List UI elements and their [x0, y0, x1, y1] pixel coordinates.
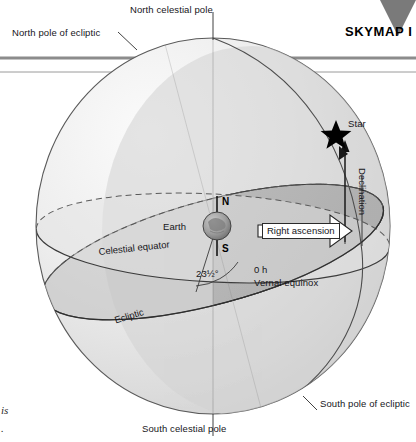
- label-vernal-hour: 0 h: [254, 264, 268, 276]
- label-star: Star: [348, 118, 366, 130]
- label-obliquity-angle: 23½°: [196, 268, 219, 280]
- celestial-sphere-artwork: [0, 0, 416, 442]
- skymap-figure: SKYMAP I North celestial pole North pole…: [0, 0, 416, 442]
- label-vernal-equinox: Vernal equinox: [254, 277, 318, 289]
- label-north-pole-of-ecliptic: North pole of ecliptic: [12, 27, 100, 39]
- label-declination: Declination: [357, 168, 368, 215]
- label-north-celestial-pole: North celestial pole: [130, 4, 213, 16]
- margin-text-fragment-1: is: [1, 404, 8, 416]
- label-earth: Earth: [163, 221, 186, 233]
- skymap-title: SKYMAP I: [345, 24, 412, 39]
- margin-text-fragment-2: .: [1, 422, 4, 434]
- leader-south-pole-of-ecliptic: [303, 396, 317, 410]
- label-south-axis: S: [222, 243, 229, 254]
- label-south-celestial-pole: South celestial pole: [142, 423, 226, 435]
- label-south-pole-of-ecliptic: South pole of ecliptic: [320, 398, 410, 410]
- label-right-ascension: Right ascension: [262, 223, 340, 239]
- label-north-axis: N: [222, 196, 229, 207]
- leader-north-pole-of-ecliptic: [118, 32, 137, 50]
